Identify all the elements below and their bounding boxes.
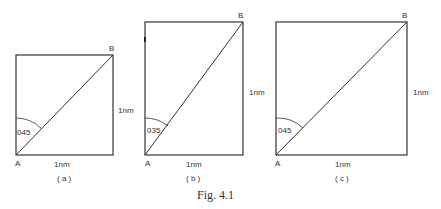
panel-a-point-a: A	[15, 159, 21, 168]
panel-b-label: ( b )	[186, 174, 201, 183]
panel-c-diagonal	[276, 22, 407, 155]
panel-b: 035 A B 1nm 1nm ( b )	[144, 11, 265, 183]
panel-a-point-b: B	[109, 44, 114, 53]
panel-b-width-label: 1nm	[186, 160, 202, 169]
panel-c: 045 A B 1nm 1nm ( c )	[275, 11, 429, 183]
panel-b-height-label: 1nm	[249, 88, 265, 97]
panel-b-angle-label: 035	[147, 126, 161, 135]
panel-c-angle-label: 045	[278, 126, 292, 135]
panel-b-tick-mark	[144, 37, 146, 42]
panel-a-diagonal	[16, 55, 113, 155]
panel-c-width-label: 1nm	[335, 160, 351, 169]
panel-a-width-label: 1nm	[54, 160, 70, 169]
panel-c-height-label: 1nm	[413, 88, 429, 97]
panel-c-label: ( c )	[335, 174, 349, 183]
figure-4-1: 045 A B 1nm 1nm ( a ) 035 A B 1nm 1nm ( …	[0, 0, 441, 209]
panel-b-angle-arc	[145, 118, 168, 126]
panel-c-point-a: A	[275, 159, 281, 168]
panel-a: 045 A B 1nm 1nm ( a )	[15, 44, 134, 183]
panel-a-label: ( a )	[57, 174, 72, 183]
panel-b-diagonal	[145, 22, 243, 155]
panel-a-angle-label: 045	[17, 128, 31, 137]
panel-a-height-label: 1nm	[118, 106, 134, 115]
panel-c-point-b: B	[402, 11, 407, 20]
figure-caption: Fig. 4.1	[197, 188, 234, 202]
panel-b-point-a: A	[145, 159, 151, 168]
panel-b-point-b: B	[238, 11, 243, 20]
